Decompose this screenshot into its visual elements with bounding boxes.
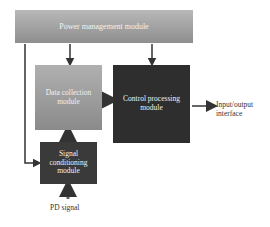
io-interface-label: Input/output interface (216, 100, 268, 118)
pd-signal-label: PD signal (50, 203, 79, 212)
control-processing-label: Control processing module (113, 95, 190, 112)
signal-conditioning-label: Signal conditioning module (40, 150, 97, 176)
power-module-label: Power management module (59, 22, 148, 31)
data-collection-module: Data collection module (35, 65, 102, 130)
signal-conditioning-module: Signal conditioning module (40, 142, 97, 184)
power-management-module: Power management module (15, 10, 193, 43)
control-processing-module: Control processing module (113, 65, 190, 143)
data-collection-label: Data collection module (35, 89, 102, 106)
